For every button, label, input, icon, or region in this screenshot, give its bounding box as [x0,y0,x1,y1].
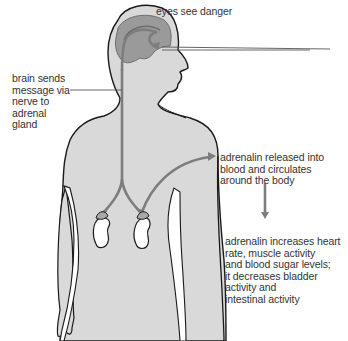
adrenalin-effects-label: adrenalin increases heart rate, muscle a… [225,236,340,306]
eyes-sight-line [162,47,330,49]
left-kidney [93,218,109,248]
brain-sends-message-label: brain sends message via nerve to adrenal… [12,73,70,131]
left-kidney-group [93,212,109,248]
arrowhead-effects [261,212,269,219]
eyes-see-danger-label: eyes see danger [156,6,232,18]
adrenalin-released-label: adrenalin released into blood and circul… [220,152,324,187]
